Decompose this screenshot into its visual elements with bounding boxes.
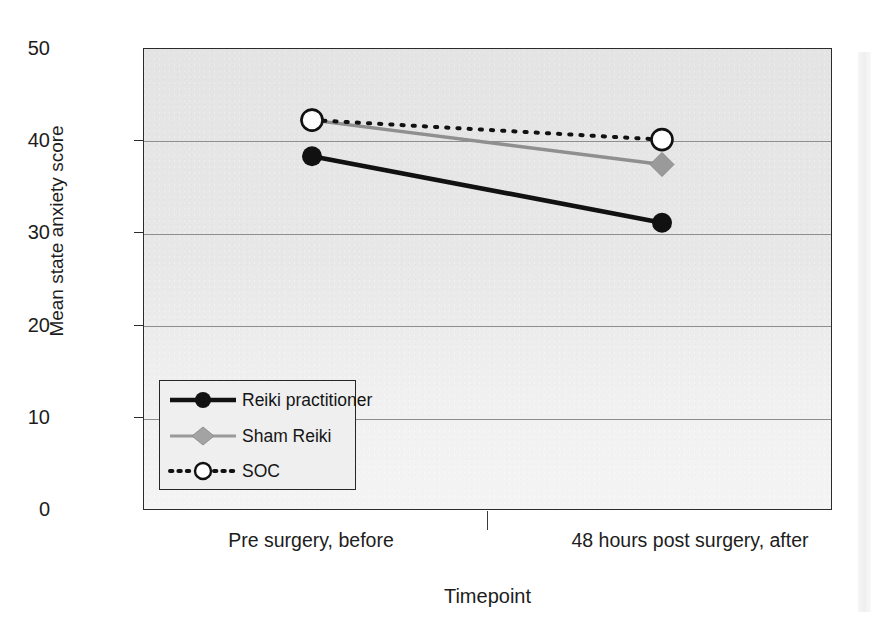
y-axis-title: Mean state anxiety score [46,0,74,462]
legend-label-soc: SOC [242,461,280,482]
x-tick-label-post-surgery: 48 hours post surgery, after [545,529,835,552]
plot-area: Reiki practitioner Sham Reiki [143,48,832,510]
scan-edge-artifact [858,52,871,612]
y-tick-label-20: 20 [6,315,50,335]
reiki-practitioner-marker-post [652,213,672,233]
y-tick-label-50: 50 [6,38,50,58]
legend-swatch-sham-reiki [168,423,238,449]
y-tick-label-40: 40 [6,130,50,150]
x-axis-title: Timepoint [143,585,832,608]
line-chart-figure: Mean state anxiety score 50 40 30 20 10 … [0,0,876,631]
x-tick-label-pre-surgery: Pre surgery, before [200,529,422,552]
y-tick-mark-30 [134,232,143,233]
sham-reiki-marker-post [650,153,674,177]
y-tick-mark-10 [134,417,143,418]
legend-swatch-soc [168,458,238,484]
legend-swatch-reiki-practitioner [168,387,238,413]
legend-item-soc: SOC [168,456,280,486]
y-tick-mark-20 [134,325,143,326]
legend-label-reiki-practitioner: Reiki practitioner [242,390,372,411]
legend-item-reiki-practitioner: Reiki practitioner [168,385,372,415]
reiki-practitioner-marker-pre [302,146,322,166]
soc-marker-pre [302,110,323,131]
soc-marker-post [652,129,673,150]
y-tick-label-30: 30 [6,222,50,242]
legend: Reiki practitioner Sham Reiki [159,380,356,490]
y-tick-label-10: 10 [6,407,50,427]
sham-reiki-line [312,120,662,164]
y-tick-mark-40 [134,140,143,141]
reiki-practitioner-line [312,156,662,223]
soc-line [312,120,662,140]
legend-label-sham-reiki: Sham Reiki [242,426,331,447]
legend-item-sham-reiki: Sham Reiki [168,421,331,451]
x-tick-mark-mid [487,511,488,530]
y-tick-label-0: 0 [6,499,50,519]
series-soc [302,110,673,151]
